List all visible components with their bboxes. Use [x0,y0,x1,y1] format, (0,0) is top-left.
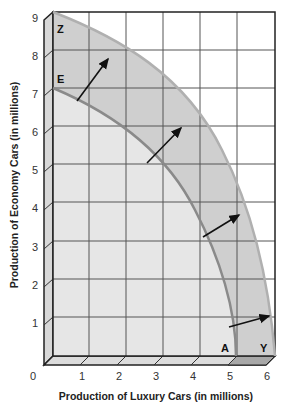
label-z: Z [57,23,64,35]
label-y: Y [260,342,268,354]
y-axis-ticks: 9 8 7 6 5 4 3 2 1 [32,12,38,329]
svg-text:3: 3 [32,241,38,253]
svg-text:3: 3 [153,370,159,382]
svg-text:5: 5 [32,164,38,176]
x-axis-ticks: 0 1 2 3 4 5 6 [30,370,270,382]
svg-text:4: 4 [32,202,38,214]
svg-text:2: 2 [32,279,38,291]
ppf-chart: Z E A Y 9 8 7 6 5 4 3 2 1 0 1 2 3 4 5 6 … [0,0,288,406]
svg-text:8: 8 [32,50,38,62]
svg-text:1: 1 [79,370,85,382]
svg-text:2: 2 [116,370,122,382]
svg-text:0: 0 [30,370,36,382]
svg-text:4: 4 [190,370,196,382]
svg-text:1: 1 [32,317,38,329]
svg-text:5: 5 [227,370,233,382]
chart-left-side [44,12,53,365]
label-a: A [221,342,229,354]
x-axis-title: Production of Luxury Cars (in millions) [59,390,253,402]
svg-text:9: 9 [32,12,38,24]
svg-text:6: 6 [264,370,270,382]
svg-text:6: 6 [32,126,38,138]
svg-text:7: 7 [32,88,38,100]
label-e: E [57,73,64,85]
y-axis-title: Production of Economy Cars (in millions) [8,82,20,289]
